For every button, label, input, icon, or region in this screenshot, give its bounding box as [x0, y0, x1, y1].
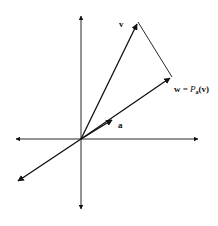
line-a-negative-extension: [18, 139, 81, 181]
label-a: a: [118, 121, 123, 130]
perpendicular-segment: [138, 22, 172, 77]
projection-diagram: [0, 0, 218, 226]
label-w-equals-projection: w = Pa(v): [174, 85, 209, 95]
label-projection-arg: (v): [199, 84, 210, 94]
label-equals: =: [183, 84, 188, 94]
label-v: v: [119, 20, 124, 29]
vector-w: [81, 78, 170, 139]
label-w: w: [174, 84, 181, 94]
